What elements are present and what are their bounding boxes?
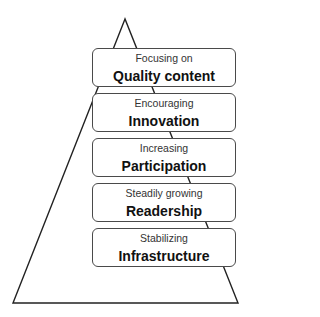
level-subtitle: Focusing on (93, 52, 235, 65)
level-subtitle: Increasing (93, 142, 235, 155)
level-title: Infrastructure (93, 247, 235, 265)
pyramid-level-participation: Increasing Participation (92, 138, 236, 177)
level-title: Readership (93, 202, 235, 220)
pyramid-level-readership: Steadily growing Readership (92, 183, 236, 222)
level-title: Innovation (93, 112, 235, 130)
level-subtitle: Stabilizing (93, 232, 235, 245)
pyramid-level-innovation: Encouraging Innovation (92, 93, 236, 132)
pyramid-level-infrastructure: Stabilizing Infrastructure (92, 228, 236, 267)
pyramid-level-quality-content: Focusing on Quality content (92, 48, 236, 87)
level-subtitle: Encouraging (93, 97, 235, 110)
level-subtitle: Steadily growing (93, 187, 235, 200)
level-title: Quality content (93, 67, 235, 85)
level-title: Participation (93, 157, 235, 175)
